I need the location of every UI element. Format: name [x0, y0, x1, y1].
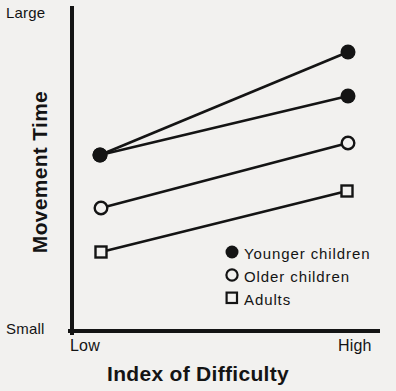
- legend-markers: [226, 246, 239, 304]
- legend-marker-filled-circle: [226, 246, 239, 259]
- series-line: [101, 191, 347, 252]
- data-point-filled-circle: [341, 89, 356, 104]
- series-line: [100, 52, 348, 155]
- x-axis-title: Index of Difficulty: [0, 362, 396, 386]
- data-point-open-circle: [342, 137, 355, 150]
- legend-marker-open-circle: [226, 269, 237, 280]
- legend-marker-open-square: [227, 293, 237, 303]
- legend-item-adults: Adults: [244, 291, 291, 308]
- legend-item-older-children: Older children: [244, 268, 350, 285]
- y-axis-tick-label-small: Small: [6, 320, 45, 337]
- data-point-open-square: [96, 247, 107, 258]
- x-axis-tick-label-high: High: [338, 337, 372, 355]
- data-point-filled-circle: [93, 148, 108, 163]
- series-line: [101, 143, 348, 208]
- series-older-children: [95, 137, 355, 215]
- legend-item-younger-children: Younger children: [244, 245, 370, 262]
- x-axis-tick-label-low: Low: [70, 337, 100, 355]
- y-axis-tick-label-large: Large: [6, 4, 45, 21]
- y-axis-title: Movement Time: [28, 72, 52, 272]
- chart-canvas: [0, 0, 396, 391]
- data-point-open-circle: [95, 202, 108, 215]
- chart-figure: Large Small Low High Index of Difficulty…: [0, 0, 396, 391]
- data-point-filled-circle: [341, 45, 356, 60]
- data-point-open-square: [342, 186, 353, 197]
